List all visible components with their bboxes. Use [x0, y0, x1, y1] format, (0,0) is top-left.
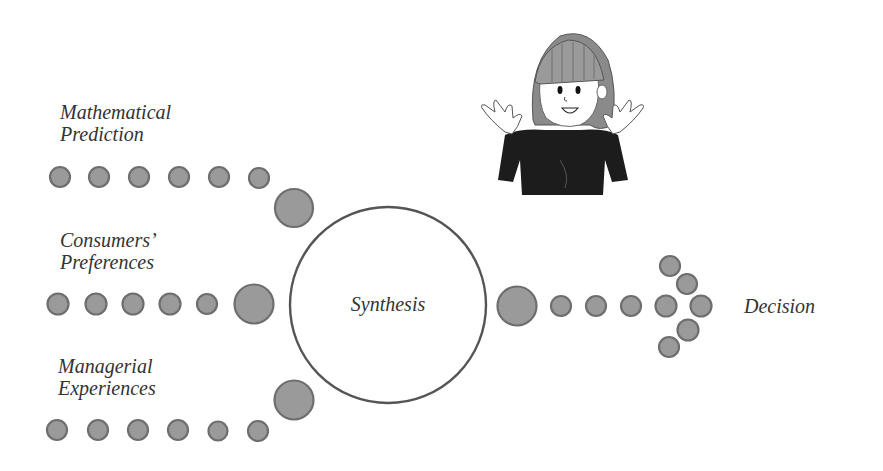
center-label-synthesis: Synthesis	[335, 293, 441, 315]
dot-row-managerial-experiences	[47, 381, 314, 442]
arrow-head-dots	[656, 256, 712, 357]
girl-illustration-icon	[481, 34, 643, 195]
dot-row-decision	[498, 287, 642, 326]
flow-diagram	[0, 0, 883, 471]
dot-row-mathematical-prediction	[50, 167, 313, 227]
output-label-decision: Decision	[744, 295, 815, 317]
dot-row-consumers-preferences	[48, 285, 274, 324]
